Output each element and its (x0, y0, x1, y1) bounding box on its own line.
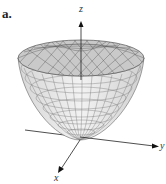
paraboloid-figure (0, 0, 166, 184)
y-axis-label: y (160, 140, 164, 151)
y-axis (80, 137, 154, 146)
z-axis-label: z (79, 3, 83, 14)
x-axis-label: x (54, 172, 58, 183)
x-axis (61, 140, 80, 169)
y-axis-arrow-icon (152, 144, 159, 149)
z-axis-arrow-icon (79, 21, 84, 27)
x-axis-arrow-icon (58, 166, 64, 173)
